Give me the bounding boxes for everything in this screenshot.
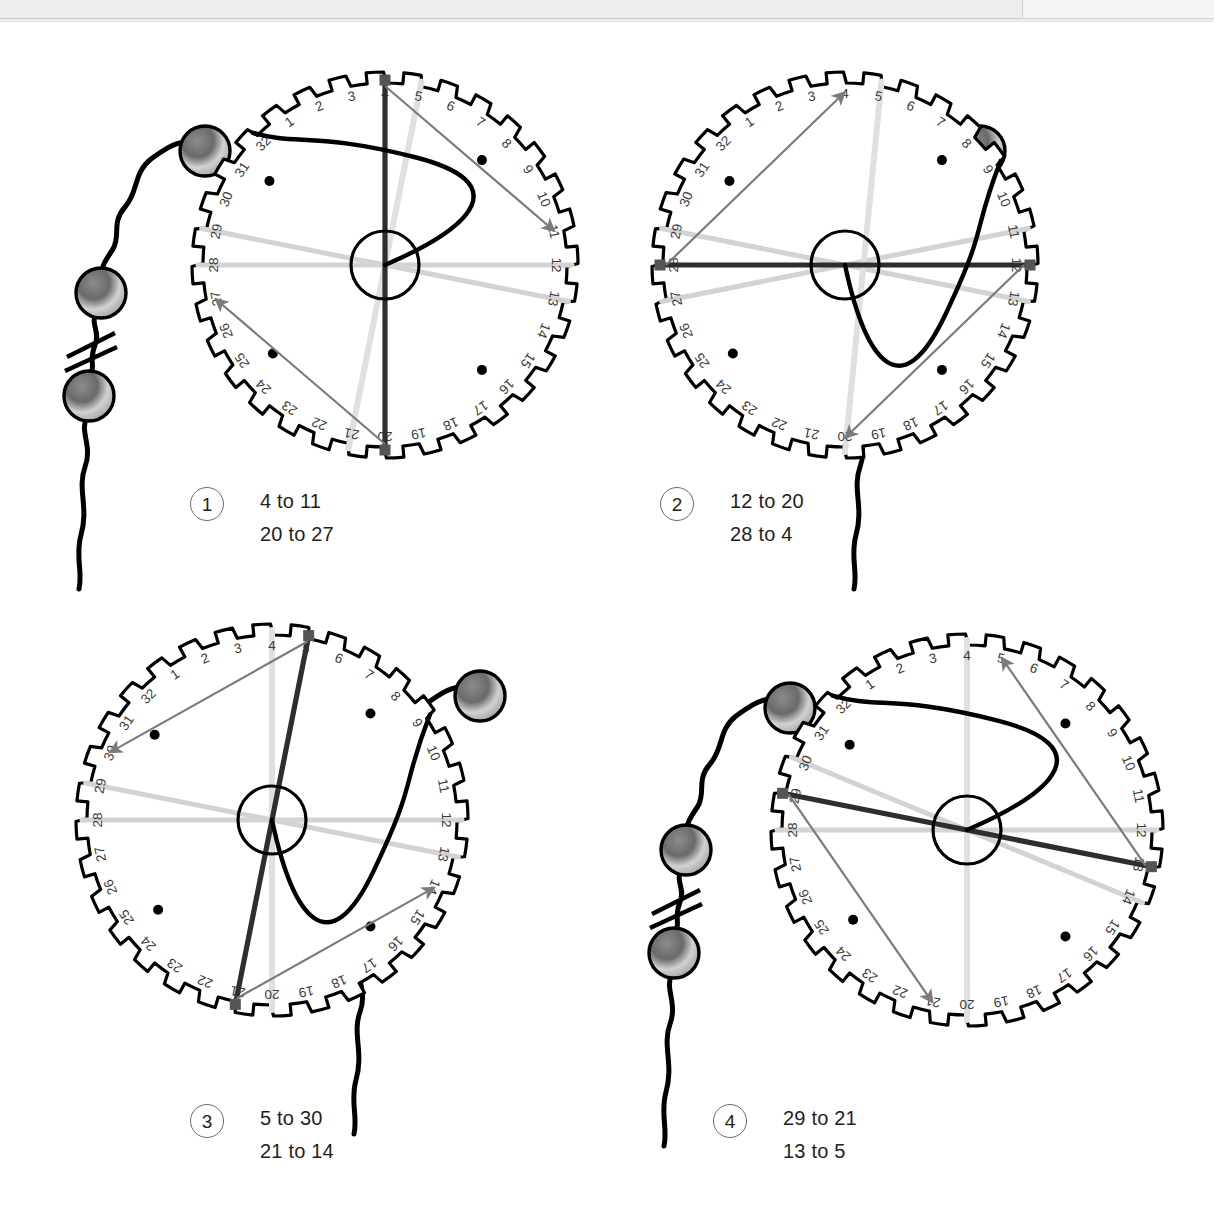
dial-label-20: 20 — [264, 987, 279, 1002]
index-dot-2 — [937, 365, 947, 375]
dial-label-29: 29 — [208, 223, 226, 241]
figure-4: 1234567891011121314151617181920212223242… — [741, 604, 1193, 1056]
dial-label-4: 4 — [268, 638, 276, 653]
dial-label-19: 19 — [992, 993, 1010, 1011]
dial-label-13: 13 — [1005, 290, 1023, 308]
caption-lines: 5 to 3021 to 14 — [260, 1104, 334, 1163]
chord-endpoint-1 — [380, 445, 391, 456]
caption-line: 5 to 30 — [260, 1107, 334, 1130]
index-dot-1 — [365, 708, 375, 718]
scan-top-band — [0, 0, 1213, 22]
caption-line: 4 to 11 — [260, 490, 334, 513]
figure-2: 1234567891011121314151617181920212223242… — [622, 42, 1068, 488]
dial-label-19: 19 — [410, 425, 428, 443]
dial-wheel: 1234567891011121314151617181920212223242… — [741, 604, 1193, 1056]
caption-line: 29 to 21 — [783, 1107, 857, 1130]
bead-2 — [76, 268, 126, 318]
chord-endpoint-1 — [655, 260, 666, 271]
index-dot-3 — [728, 348, 738, 358]
caption-number-badge: 3 — [190, 1104, 224, 1138]
dial-label-11: 11 — [1005, 223, 1022, 240]
dial-label-28: 28 — [206, 257, 221, 272]
chord-endpoint-0 — [303, 630, 314, 641]
caption-line: 20 to 27 — [260, 523, 334, 546]
index-dot-2 — [477, 365, 487, 375]
index-dot-1 — [477, 155, 487, 165]
figure-3: 1234567891011121314151617181920212223242… — [46, 594, 498, 1046]
dial-label-27: 27 — [668, 290, 686, 308]
caption-3: 35 to 3021 to 14 — [190, 1104, 334, 1163]
dial-label-21: 21 — [803, 425, 821, 443]
caption-number-badge: 1 — [190, 487, 224, 521]
dial-label-27: 27 — [787, 855, 805, 873]
caption-line: 21 to 14 — [260, 1140, 334, 1163]
chord-endpoint-0 — [1025, 260, 1036, 271]
caption-line: 28 to 4 — [730, 523, 804, 546]
dial-label-19: 19 — [297, 983, 315, 1001]
index-dot-2 — [1060, 932, 1070, 942]
caption-lines: 12 to 2028 to 4 — [730, 487, 804, 546]
scan-band-hairline — [0, 21, 1213, 22]
caption-lines: 29 to 2113 to 5 — [783, 1104, 857, 1163]
chord-endpoint-0 — [777, 788, 788, 799]
index-dot-3 — [153, 905, 163, 915]
caption-lines: 4 to 1120 to 27 — [260, 487, 334, 546]
dial-label-28: 28 — [785, 822, 800, 837]
dial-label-13: 13 — [435, 845, 453, 863]
caption-number-badge: 4 — [713, 1104, 747, 1138]
dial-label-27: 27 — [92, 845, 110, 863]
caption-line: 13 to 5 — [783, 1140, 857, 1163]
dial-label-13: 13 — [545, 290, 563, 308]
caption-4: 429 to 2113 to 5 — [713, 1104, 857, 1163]
bead-2 — [661, 825, 711, 875]
dial-wheel: 1234567891011121314151617181920212223242… — [622, 42, 1068, 488]
index-dot-0 — [264, 176, 274, 186]
index-dot-0 — [845, 740, 855, 750]
figure-1: 1234567891011121314151617181920212223242… — [162, 42, 608, 488]
chord-endpoint-0 — [380, 75, 391, 86]
chord-endpoint-1 — [1146, 861, 1157, 872]
dial-label-21: 21 — [343, 425, 361, 443]
dial-label-29: 29 — [668, 223, 686, 241]
dial-label-12: 12 — [1134, 822, 1149, 837]
dial-label-20: 20 — [959, 997, 974, 1012]
bead-3 — [649, 928, 699, 978]
caption-1: 14 to 1120 to 27 — [190, 487, 334, 546]
index-dot-1 — [1060, 718, 1070, 728]
index-dot-0 — [724, 176, 734, 186]
caption-number-badge: 2 — [660, 487, 694, 521]
scan-band-left — [0, 0, 1022, 19]
dial-wheel: 1234567891011121314151617181920212223242… — [46, 594, 498, 1046]
dial-label-28: 28 — [90, 812, 105, 827]
dial-label-11: 11 — [435, 778, 452, 795]
bead-3 — [64, 371, 114, 421]
dial-label-12: 12 — [439, 812, 454, 827]
dial-label-11: 11 — [1130, 788, 1147, 805]
dial-label-12: 12 — [549, 257, 564, 272]
dial-label-19: 19 — [870, 425, 888, 443]
dial-label-4: 4 — [963, 648, 971, 663]
caption-line: 12 to 20 — [730, 490, 804, 513]
caption-2: 212 to 2028 to 4 — [660, 487, 804, 546]
chord-endpoint-1 — [230, 999, 241, 1010]
dial-wheel: 1234567891011121314151617181920212223242… — [162, 42, 608, 488]
scan-band-right — [1022, 0, 1214, 19]
index-dot-1 — [937, 155, 947, 165]
index-dot-3 — [848, 915, 858, 925]
index-dot-0 — [150, 730, 160, 740]
dial-label-29: 29 — [92, 777, 110, 795]
